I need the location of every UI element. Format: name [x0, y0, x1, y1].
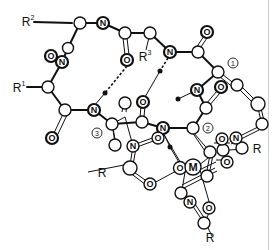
svg-text:3: 3	[95, 130, 99, 137]
svg-text:O: O	[217, 82, 224, 92]
r3-label: R3	[139, 49, 152, 65]
marker-1: 1	[228, 58, 238, 68]
r-label-right: R	[253, 142, 262, 156]
svg-text:N: N	[130, 141, 137, 151]
svg-text:O: O	[47, 51, 54, 61]
svg-text:2: 2	[206, 125, 210, 132]
svg-text:M: M	[188, 161, 197, 173]
svg-text:N: N	[233, 133, 240, 143]
svg-text:O: O	[223, 157, 230, 167]
svg-text:N: N	[194, 85, 201, 95]
svg-text:O: O	[48, 133, 55, 143]
substituent-labels: R2 R1 R3 R R R	[13, 14, 262, 246]
carbon-atoms	[42, 17, 268, 229]
metal-center: M	[185, 159, 201, 175]
r-label-bottom: R	[206, 231, 215, 245]
svg-text:O: O	[139, 97, 146, 107]
marker-3: 3	[92, 128, 102, 138]
svg-text:O: O	[205, 203, 212, 213]
svg-text:O: O	[218, 134, 225, 144]
svg-text:O: O	[203, 27, 210, 37]
r1-label: R1	[13, 80, 26, 96]
r2-label: R2	[22, 14, 35, 30]
molecular-structure-diagram: N N N N N N N N N O O O O O O O O O	[0, 0, 280, 250]
svg-text:N: N	[91, 105, 98, 115]
svg-text:N: N	[59, 57, 66, 67]
svg-text:1: 1	[231, 60, 235, 67]
svg-text:O: O	[154, 133, 161, 143]
svg-text:N: N	[160, 123, 167, 133]
svg-text:N: N	[167, 47, 174, 57]
svg-text:O: O	[176, 163, 183, 173]
svg-text:N: N	[187, 197, 194, 207]
r-label-left: R	[98, 166, 107, 180]
marker-2: 2	[203, 123, 213, 133]
svg-text:N: N	[100, 18, 107, 28]
svg-text:O: O	[146, 179, 153, 189]
svg-text:O: O	[123, 55, 130, 65]
